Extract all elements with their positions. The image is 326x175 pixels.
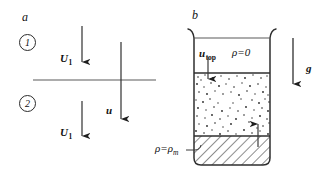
diagram-overlay — [0, 0, 326, 175]
panel-b-geometry — [186, 29, 293, 166]
panel-a-geometry — [33, 26, 156, 136]
figure-root: a 1 2 U1 U1 u b utop ρ=0 ρ=ρ0 ubot ρ=ρm … — [0, 0, 326, 175]
